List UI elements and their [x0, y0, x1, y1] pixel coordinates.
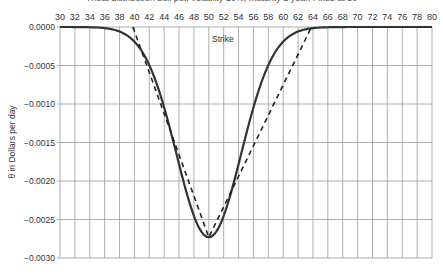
y-tick-label: −0.0030	[24, 253, 55, 263]
x-tick-label: 46	[174, 12, 184, 22]
x-tick-label: 72	[367, 12, 377, 22]
x-tick-label: 66	[323, 12, 333, 22]
x-tick-label: 58	[263, 12, 273, 22]
x-tick-label: 78	[412, 12, 422, 22]
x-tick-label: 42	[144, 12, 154, 22]
x-tick-label: 56	[248, 12, 258, 22]
y-tick-label: −0.0005	[24, 61, 55, 71]
x-tick-label: 74	[382, 12, 392, 22]
theta-solid-line	[60, 27, 432, 237]
y-tick-label: −0.0020	[24, 176, 55, 186]
x-tick-label: 50	[204, 12, 214, 22]
y-tick-label: −0.0010	[24, 99, 55, 109]
x-tick-label: 64	[308, 12, 318, 22]
x-tick-label: 62	[293, 12, 303, 22]
y-axis-ticks: 0.0000−0.0005−0.0010−0.0015−0.0020−0.002…	[24, 22, 55, 263]
y-tick-label: 0.0000	[29, 22, 55, 32]
x-tick-label: 54	[234, 12, 244, 22]
x-axis-ticks: 3032343638404244464850525456586062646668…	[55, 12, 437, 22]
x-tick-label: 76	[397, 12, 407, 22]
x-tick-label: 38	[115, 12, 125, 22]
x-tick-label: 34	[85, 12, 95, 22]
x-tick-label: 40	[129, 12, 139, 22]
x-tick-label: 32	[70, 12, 80, 22]
theta-chart: 3032343638404244464850525456586062646668…	[0, 0, 443, 275]
x-axis-label: Strike	[212, 34, 234, 44]
x-tick-label: 48	[189, 12, 199, 22]
x-tick-label: 60	[278, 12, 288, 22]
x-tick-label: 68	[338, 12, 348, 22]
y-tick-label: −0.0025	[24, 215, 55, 225]
x-tick-label: 70	[353, 12, 363, 22]
x-tick-label: 30	[55, 12, 65, 22]
theta-dashed-line	[133, 27, 312, 237]
x-tick-label: 80	[427, 12, 437, 22]
y-axis-label: θ in Dollars per day	[7, 105, 17, 179]
y-tick-label: −0.0015	[24, 138, 55, 148]
x-tick-label: 44	[159, 12, 169, 22]
x-tick-label: 36	[100, 12, 110, 22]
x-tick-label: 52	[219, 12, 229, 22]
